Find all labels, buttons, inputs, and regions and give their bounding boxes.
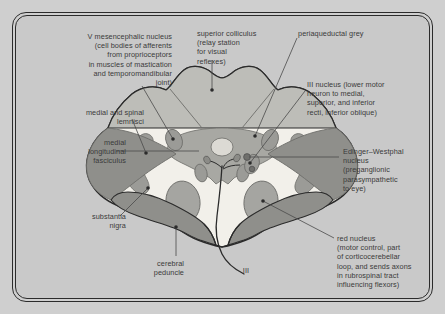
label-iii-nucleus: III nucleus (lower motor neuron to media… xyxy=(307,80,429,117)
label-medial-longitudinal-fasciculus: medial longitudinal fasciculus xyxy=(34,138,126,166)
anchor-medial-spinal-lemnisci xyxy=(144,151,148,155)
label-medial-and-spinal-lemnisci: medial and spinal lemnisci xyxy=(34,108,144,126)
anchor-superior-colliculus xyxy=(210,88,214,92)
label-red-nucleus: red nucleus (motor control, part of cort… xyxy=(337,234,429,289)
anchor-substantia-nigra xyxy=(146,186,150,190)
figure-container: V mesencephalic nucleus (cell bodies of … xyxy=(12,12,433,302)
anchor-periaqueductal-grey xyxy=(253,134,257,138)
label-edinger-westphal-nucleus: Edinger–Westphal nucleus (preganglionic … xyxy=(343,147,429,193)
anchor-red-nucleus xyxy=(261,199,265,203)
label-superior-colliculus: superior colliculus (relay station for v… xyxy=(197,29,293,66)
figure-canvas: V mesencephalic nucleus (cell bodies of … xyxy=(16,16,429,298)
label-substantia-nigra: substantia nigra xyxy=(34,212,126,230)
cerebral-aqueduct xyxy=(211,138,233,156)
label-cerebral-peduncle: cerebral peduncle xyxy=(112,259,184,277)
label-periaqueductal-grey: periaqueductal grey xyxy=(298,29,398,38)
edinger-westphal-region-inferior xyxy=(249,166,255,172)
label-v-mesencephalic-nucleus: V mesencephalic nucleus (cell bodies of … xyxy=(34,32,172,87)
label-nerve-iii: III xyxy=(239,266,253,275)
anchor-cerebral-peduncle xyxy=(174,225,178,229)
anchor-v-mesencephalic-nucleus xyxy=(171,137,175,141)
anchor-iii-nucleus xyxy=(248,161,252,165)
